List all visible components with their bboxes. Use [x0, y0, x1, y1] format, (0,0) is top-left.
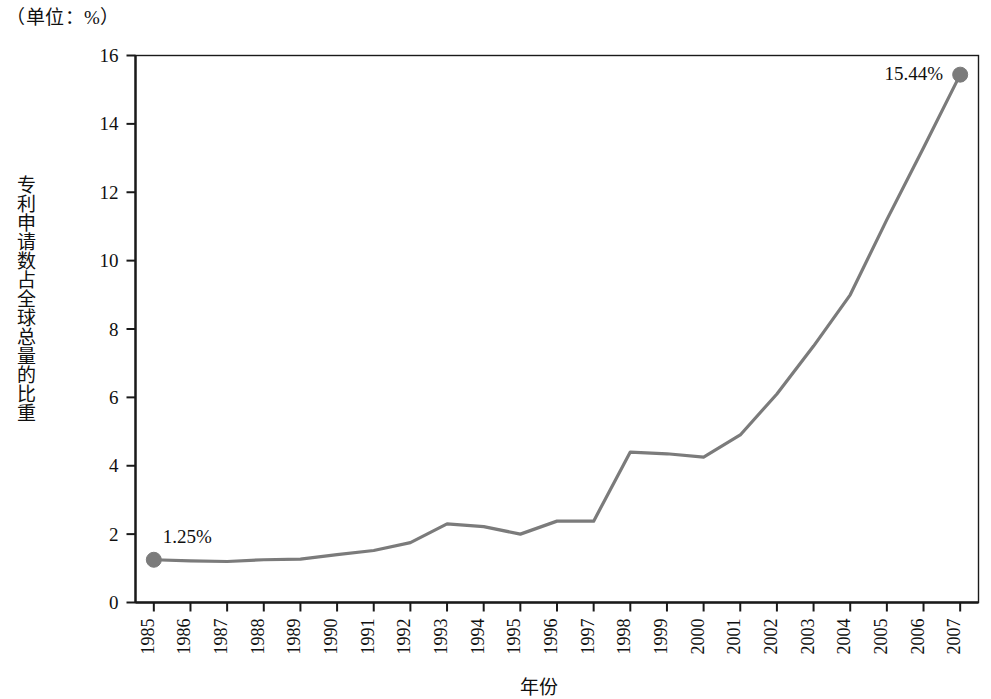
svg-text:2002: 2002 [761, 619, 781, 655]
data-point-labels: 1.25%15.44% [163, 63, 944, 547]
svg-text:2007: 2007 [944, 619, 964, 655]
data-point-markers [146, 67, 967, 567]
svg-text:1995: 1995 [504, 619, 524, 655]
svg-text:1998: 1998 [614, 619, 634, 655]
svg-text:0: 0 [109, 592, 119, 613]
svg-text:2003: 2003 [798, 619, 818, 655]
svg-text:1990: 1990 [321, 619, 341, 655]
svg-text:12: 12 [100, 182, 119, 203]
svg-text:1986: 1986 [174, 619, 194, 655]
line-chart-plot: 0246810121416 19851986198719881989199019… [0, 0, 991, 699]
svg-text:4: 4 [109, 455, 119, 476]
svg-text:2005: 2005 [871, 619, 891, 655]
chart-figure: （单位：%） 专利申请数占全球总量的比重 0246810121416 19851… [0, 0, 991, 699]
svg-text:2004: 2004 [834, 619, 854, 655]
svg-text:1985: 1985 [138, 619, 158, 655]
svg-text:1999: 1999 [651, 619, 671, 655]
x-axis-title: 年份 [0, 672, 991, 699]
svg-text:6: 6 [109, 387, 119, 408]
svg-text:14: 14 [100, 113, 120, 134]
svg-text:1993: 1993 [431, 619, 451, 655]
x-axis-ticks: 1985198619871988198919901991199219931994… [138, 603, 964, 655]
svg-text:1994: 1994 [468, 619, 488, 655]
data-series-line [154, 75, 960, 562]
svg-text:2001: 2001 [724, 619, 744, 655]
svg-text:10: 10 [100, 250, 119, 271]
svg-text:16: 16 [100, 45, 119, 66]
svg-text:2000: 2000 [688, 619, 708, 655]
svg-text:15.44%: 15.44% [885, 63, 944, 84]
svg-text:1.25%: 1.25% [163, 526, 212, 547]
svg-text:1996: 1996 [541, 619, 561, 655]
svg-text:1997: 1997 [578, 619, 598, 655]
svg-text:2: 2 [109, 524, 119, 545]
svg-text:1988: 1988 [248, 619, 268, 655]
svg-text:1987: 1987 [211, 619, 231, 655]
svg-text:1989: 1989 [284, 619, 304, 655]
svg-text:1992: 1992 [394, 619, 414, 655]
y-axis-ticks: 0246810121416 [100, 45, 136, 613]
svg-text:8: 8 [109, 319, 119, 340]
svg-text:1991: 1991 [358, 619, 378, 655]
svg-text:2006: 2006 [908, 619, 928, 655]
